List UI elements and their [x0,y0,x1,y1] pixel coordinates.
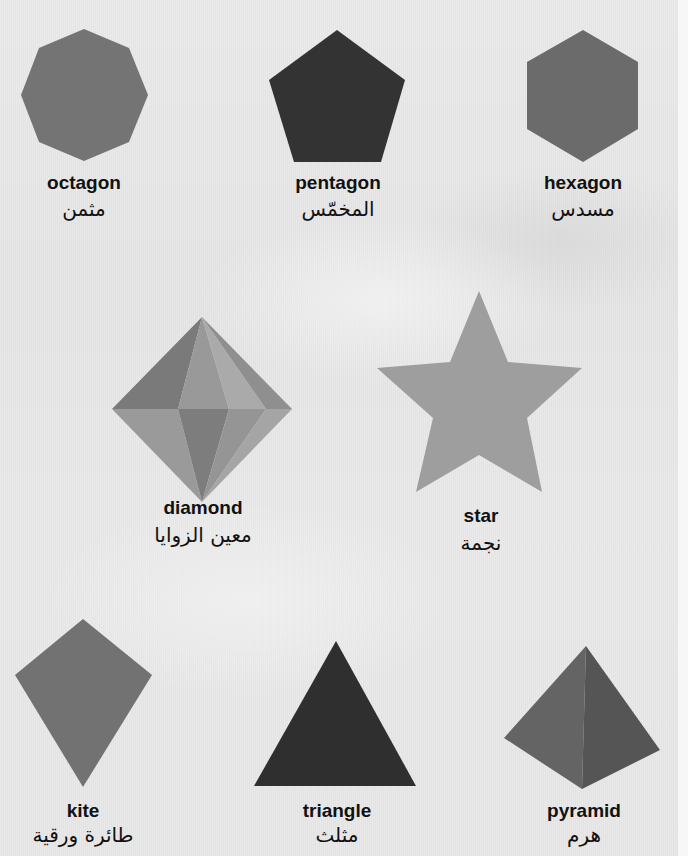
hexagon-shape [527,30,638,162]
star-label: star نجمة [461,505,502,556]
pyramid-shape [504,646,660,789]
octagon-shape [21,29,148,161]
pentagon-arabic-label: المخمّس [295,196,381,222]
hexagon-arabic-label: مسدس [544,196,622,222]
triangle-arabic-label: مثلث [303,822,372,848]
triangle-english-label: triangle [303,800,372,822]
octagon-english-label: octagon [47,172,121,194]
octagon-label: octagon مثمن [47,172,121,222]
pyramid-english-label: pyramid [547,800,621,822]
hexagon-label: hexagon مسدس [544,172,622,222]
pentagon-english-label: pentagon [295,172,381,194]
diamond-arabic-label: معين الزوايا [154,522,252,548]
shapes-canvas [0,0,688,856]
diamond-english-label: diamond [154,497,252,519]
pyramid-label: pyramid هرم [547,800,621,848]
hexagon-english-label: hexagon [544,172,622,194]
diamond-shape [112,317,292,502]
triangle-shape [254,641,416,786]
pentagon-shape [269,30,405,162]
kite-arabic-label: طائرة ورقية [32,822,133,848]
kite-english-label: kite [32,800,133,822]
star-shape [377,291,582,492]
octagon-arabic-label: مثمن [47,196,121,222]
star-arabic-label: نجمة [461,530,502,556]
kite-shape [15,619,152,787]
triangle-label: triangle مثلث [303,800,372,848]
pyramid-arabic-label: هرم [547,822,621,848]
diamond-label: diamond معين الزوايا [154,497,252,548]
kite-label: kite طائرة ورقية [32,800,133,848]
star-english-label: star [461,505,502,527]
pentagon-label: pentagon المخمّس [295,172,381,222]
